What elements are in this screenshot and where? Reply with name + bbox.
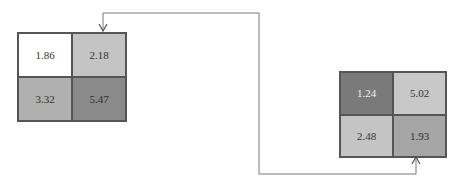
matrix-cell: 5.02 — [393, 72, 446, 115]
matrix-cell: 1.24 — [340, 72, 393, 115]
matrix-cell: 1.93 — [393, 115, 446, 158]
matrix-cell: 2.18 — [72, 33, 126, 77]
matrix-cell: 3.32 — [18, 77, 72, 121]
matrix-cell: 2.48 — [340, 115, 393, 158]
left-matrix: 1.86 2.18 3.32 5.47 — [17, 32, 127, 122]
matrix-cell: 1.86 — [18, 33, 72, 77]
matrix-cell: 5.47 — [72, 77, 126, 121]
right-matrix: 1.24 5.02 2.48 1.93 — [339, 71, 447, 158]
